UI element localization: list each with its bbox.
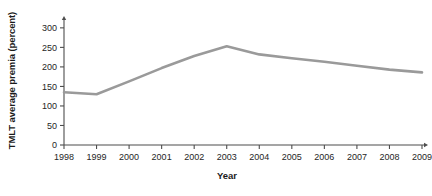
x-tick-label: 2004 (249, 152, 269, 162)
y-axis-ticks: 050100150200250300 (42, 23, 64, 150)
x-tick-label: 2005 (282, 152, 302, 162)
x-tick-label: 2003 (217, 152, 237, 162)
x-axis-ticks: 1998199920002001200220032004200520062007… (54, 145, 432, 162)
y-tick-label: 300 (42, 23, 57, 33)
x-axis-label: Year (0, 170, 432, 181)
data-series-group (64, 46, 422, 94)
y-tick-label: 250 (42, 43, 57, 53)
x-tick-label: 2002 (184, 152, 204, 162)
y-tick-label: 0 (52, 140, 57, 150)
y-tick-label: 50 (47, 121, 57, 131)
x-tick-label: 2008 (379, 152, 399, 162)
x-tick-label: 2006 (314, 152, 334, 162)
x-tick-label: 2007 (347, 152, 367, 162)
x-tick-label: 1999 (87, 152, 107, 162)
y-axis-arrow-icon (62, 16, 66, 20)
y-tick-label: 100 (42, 101, 57, 111)
y-tick-label: 150 (42, 82, 57, 92)
x-tick-label: 2009 (412, 152, 432, 162)
line-chart-plot: 050100150200250300 199819992000200120022… (0, 0, 432, 196)
x-tick-label: 2001 (152, 152, 172, 162)
y-tick-label: 200 (42, 62, 57, 72)
chart-container: TMLT average premia (percent) 0501001502… (0, 0, 432, 196)
axes-group (62, 16, 428, 147)
x-tick-label: 1998 (54, 152, 74, 162)
x-axis-arrow-icon (424, 143, 428, 147)
x-tick-label: 2000 (119, 152, 139, 162)
data-line (64, 46, 422, 94)
